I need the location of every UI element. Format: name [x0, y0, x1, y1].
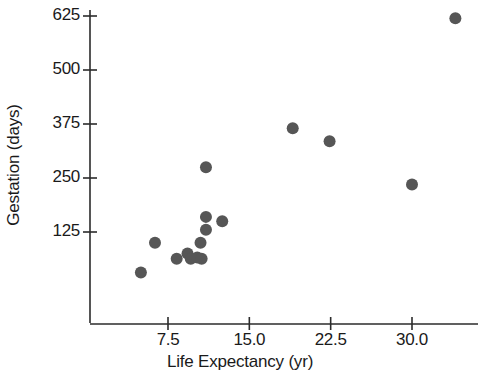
data-point: [196, 253, 208, 265]
data-point: [200, 161, 212, 173]
data-point: [195, 237, 207, 249]
scatter-plot-figure: Gestation (days) 125250375500625 7.515.0…: [0, 0, 480, 392]
data-point: [287, 122, 299, 134]
data-point: [324, 135, 336, 147]
tick-marks-group: [83, 16, 412, 330]
data-point: [216, 215, 228, 227]
data-point: [200, 211, 212, 223]
data-point: [149, 237, 161, 249]
data-points-group: [135, 12, 461, 278]
plot-area: [0, 0, 480, 392]
data-point: [171, 253, 183, 265]
data-point: [449, 12, 461, 24]
data-point: [200, 224, 212, 236]
axes-group: [90, 10, 478, 324]
data-point: [406, 178, 418, 190]
data-point: [135, 267, 147, 279]
